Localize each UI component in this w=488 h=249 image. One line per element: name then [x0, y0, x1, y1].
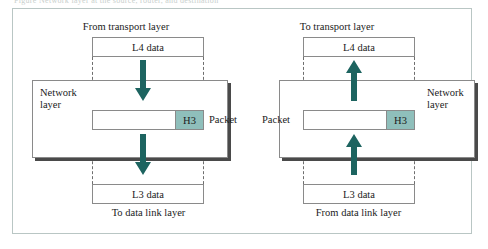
left-packet-header-h3: H3 — [175, 111, 203, 129]
encapsulation-panel: From transport layer L4 data Network lay… — [13, 9, 242, 233]
left-l4-data-box: L4 data — [92, 37, 204, 57]
right-bottom-caption: From data link layer — [266, 207, 451, 218]
left-network-layer-label-line2: layer — [40, 99, 61, 110]
left-network-layer-label: Network layer — [40, 87, 77, 111]
right-network-layer-label-line2: layer — [427, 99, 448, 110]
figure-top-caption: Figure Network layer at the source, rout… — [14, 0, 218, 5]
left-bottom-caption: To data link layer — [61, 207, 236, 218]
right-l4-data-box: L4 data — [303, 37, 415, 57]
right-packet-label: Packet — [262, 114, 290, 125]
right-packet-payload — [304, 111, 386, 129]
left-arrow-down-into-network — [134, 60, 152, 102]
right-l3-data-box: L3 data — [303, 184, 415, 204]
left-packet-payload — [93, 111, 175, 129]
figure-frame: From transport layer L4 data Network lay… — [12, 8, 472, 234]
left-l3-data-box: L3 data — [92, 184, 204, 204]
left-packet-label: Packet — [209, 114, 237, 125]
right-top-caption: To transport layer — [272, 21, 402, 32]
right-network-layer-label-line1: Network — [427, 87, 464, 98]
right-network-layer-label: Network layer — [427, 87, 464, 111]
left-top-caption: From transport layer — [61, 21, 191, 32]
left-arrow-down-to-datalink — [134, 134, 152, 176]
left-packet-bar: H3 — [92, 110, 204, 130]
decapsulation-panel: To transport layer L4 data Network layer… — [242, 9, 471, 233]
right-packet-bar: H3 — [303, 110, 415, 130]
left-network-layer-label-line1: Network — [40, 87, 77, 98]
right-packet-header-h3: H3 — [386, 111, 414, 129]
right-arrow-up-from-datalink — [345, 134, 363, 176]
right-arrow-up-to-transport — [345, 60, 363, 102]
